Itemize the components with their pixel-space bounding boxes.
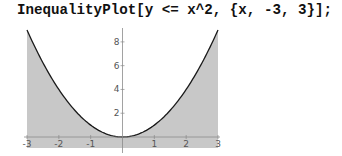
x-tick-label: 3 (215, 139, 221, 149)
inequality-plot: -3-2-11232468 (0, 0, 342, 156)
y-tick-label: 6 (114, 61, 120, 71)
y-tick-label: 8 (114, 37, 120, 47)
y-tick-label: 4 (114, 84, 120, 94)
x-tick-label: -1 (86, 139, 95, 149)
x-tick-label: -2 (54, 139, 63, 149)
x-tick-label: 1 (151, 139, 157, 149)
y-tick-label: 2 (114, 108, 120, 118)
x-tick-label: -3 (23, 139, 32, 149)
x-tick-label: 2 (183, 139, 189, 149)
